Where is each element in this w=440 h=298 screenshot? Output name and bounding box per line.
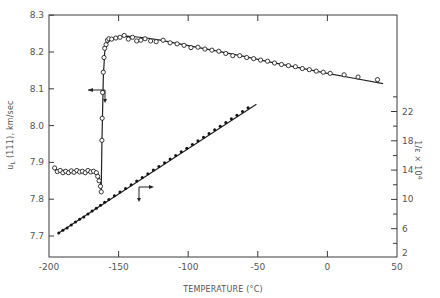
data-point-filled (118, 191, 121, 194)
data-point-filled (86, 213, 89, 216)
data-point-open (100, 116, 104, 120)
data-point-open (272, 61, 276, 65)
y-right-tick-label: 6 (402, 224, 408, 234)
data-point-filled (135, 180, 138, 183)
data-point-filled (157, 165, 160, 168)
x-tick-label: -150 (108, 262, 129, 272)
data-point-open (104, 43, 108, 47)
data-point-open (252, 57, 256, 61)
y-right-tick-label: 18 (402, 136, 414, 146)
data-point-open (293, 65, 297, 69)
x-tick-label: 50 (391, 262, 403, 272)
data-point-open (52, 166, 56, 170)
data-point-open (100, 90, 104, 94)
data-point-open (265, 59, 269, 63)
data-point-open (217, 49, 221, 53)
data-point-filled (208, 132, 211, 135)
y-tick-label: 7.8 (30, 194, 45, 204)
data-point-open (279, 62, 283, 66)
data-point-open (375, 78, 379, 82)
y-right-tick-label: 10 (402, 194, 414, 204)
data-point-filled (61, 229, 64, 232)
data-point-open (110, 37, 114, 41)
data-point-open (314, 69, 318, 73)
data-point-open (130, 35, 134, 39)
data-point-open (175, 42, 179, 46)
data-point-open (238, 54, 242, 58)
data-point-filled (78, 218, 81, 221)
data-point-filled (124, 187, 127, 190)
data-point-filled (247, 106, 250, 109)
data-point-filled (196, 139, 199, 142)
y-axis-right: 2610141822 (391, 97, 414, 258)
data-point-open (114, 36, 118, 40)
data-point-open (342, 73, 346, 77)
data-point-open (168, 41, 172, 45)
y-right-tick-label: 2 (402, 248, 408, 258)
data-point-open (307, 68, 311, 72)
data-point-open (356, 75, 360, 79)
data-point-open (135, 39, 139, 43)
data-point-open (102, 55, 106, 59)
data-point-filled (224, 121, 227, 124)
plot-border (49, 15, 397, 257)
chart: -200-150-100-50050 7.77.87.98.08.18.28.3… (0, 0, 440, 298)
y-tick-label: 8.0 (30, 121, 45, 131)
y-axis-right-title: 1/ε × 104 (413, 140, 424, 180)
data-point-open (321, 70, 325, 74)
data-point-open (139, 38, 143, 42)
x-axis-title: TEMPERATURE (°C) (182, 285, 263, 294)
data-point-open (122, 33, 126, 37)
y-tick-label: 8.1 (30, 84, 44, 94)
data-point-filled (70, 224, 73, 227)
y-right-tick-label: 14 (402, 165, 414, 175)
data-point-filled (152, 169, 155, 172)
data-point-open (203, 47, 207, 51)
data-point-filled (103, 201, 106, 204)
data-point-open (161, 38, 165, 42)
data-point-filled (95, 207, 98, 210)
arrowhead-down-icon (137, 198, 141, 202)
data-point-open (231, 54, 235, 58)
y-axis-left: 7.77.87.98.08.18.28.3 (30, 10, 54, 241)
data-point-filled (57, 232, 60, 235)
data-point-filled (191, 143, 194, 146)
data-point-filled (163, 161, 166, 164)
data-point-open (196, 45, 200, 49)
data-point-open (96, 174, 100, 178)
y-tick-label: 7.9 (30, 157, 45, 167)
arrowhead-down-icon (103, 99, 107, 103)
data-point-filled (82, 215, 85, 218)
data-point-filled (169, 158, 172, 161)
y-tick-label: 7.7 (30, 231, 44, 241)
data-point-filled (213, 128, 216, 131)
data-point-open (149, 39, 153, 43)
x-axis: -200-150-100-50050 (39, 15, 403, 272)
data-point-filled (241, 110, 244, 113)
x-tick-label: 0 (325, 262, 331, 272)
x-tick-label: -200 (39, 262, 60, 272)
data-point-filled (107, 198, 110, 201)
data-point-filled (235, 114, 238, 117)
data-point-filled (202, 136, 205, 139)
data-point-open (100, 138, 104, 142)
data-point-filled (174, 154, 177, 157)
arrowhead-left-icon (88, 88, 93, 92)
y-tick-label: 8.3 (30, 10, 44, 20)
axis-arrows (88, 88, 154, 202)
data-point-open (182, 43, 186, 47)
data-point-open (328, 71, 332, 75)
data-point-open (224, 51, 228, 55)
data-point-open (245, 55, 249, 59)
plot-frame (49, 15, 397, 257)
data-point-open (118, 35, 122, 39)
data-point-open (126, 37, 130, 41)
data-series (52, 33, 383, 234)
data-point-filled (130, 183, 133, 186)
data-point-filled (185, 147, 188, 150)
data-point-open (210, 48, 214, 52)
data-point-filled (113, 194, 116, 197)
data-point-open (98, 184, 102, 188)
data-point-filled (141, 176, 144, 179)
data-point-open (300, 66, 304, 70)
